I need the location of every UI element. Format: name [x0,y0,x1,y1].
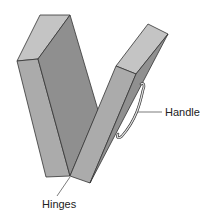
hinges-leader-line [57,177,70,196]
hinges-label: Hinges [42,199,76,210]
handle-label: Handle [165,107,200,118]
